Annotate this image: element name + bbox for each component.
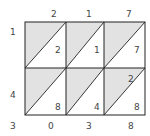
lattice-diagram: 2 1 7 1 4 2 1 7 8 4 2 8 3 0 3 8 — [0, 0, 150, 136]
cell-ones: 4 — [94, 102, 100, 112]
result-digit: 0 — [48, 121, 54, 131]
result-digit: 3 — [86, 121, 92, 131]
cell-ones: 7 — [134, 45, 140, 55]
cell-ones: 8 — [134, 102, 140, 112]
left-digit: 4 — [10, 90, 16, 100]
top-digit: 7 — [126, 9, 132, 19]
top-digit: 1 — [86, 9, 92, 19]
result-digit: 8 — [128, 121, 134, 131]
cell-ones: 1 — [94, 45, 100, 55]
left-digit: 1 — [10, 27, 16, 37]
cell-ones: 2 — [55, 45, 61, 55]
cell-ones: 8 — [55, 102, 61, 112]
result-digit: 3 — [10, 121, 16, 131]
cell-tens: 2 — [128, 74, 134, 84]
top-digit: 2 — [51, 9, 57, 19]
